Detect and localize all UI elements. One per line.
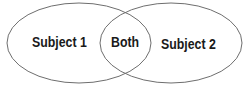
left-set-label: Subject 1 — [32, 34, 87, 50]
right-set-label: Subject 2 — [161, 36, 216, 52]
intersection-label: Both — [111, 34, 139, 50]
